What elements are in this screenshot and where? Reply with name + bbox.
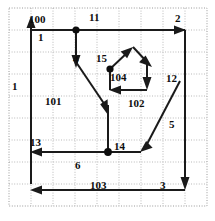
node-11-dot[interactable]: [72, 26, 79, 33]
label-2: 2: [175, 13, 181, 24]
edge-4-arrowhead: [100, 99, 108, 115]
label-102: 102: [128, 98, 145, 109]
label-node-11: 11: [89, 12, 99, 23]
label-15: 15: [96, 53, 107, 64]
edge-4-diagonal: [76, 62, 105, 105]
label-6: 6: [75, 160, 81, 171]
label-1-left: 1: [12, 81, 18, 92]
diagram-canvas: 100 11 2 1 4 15 104 12 1 101 102 5 13 14…: [0, 0, 215, 221]
label-node-14: 14: [114, 141, 125, 152]
label-100: 100: [29, 14, 46, 25]
diagram-svg: [0, 0, 215, 221]
edge-5-arrowhead: [140, 141, 153, 152]
label-104: 104: [110, 72, 127, 83]
edge-3-arrowhead: [30, 186, 42, 195]
label-12: 12: [166, 73, 177, 84]
label-103: 103: [90, 180, 107, 191]
label-3: 3: [160, 180, 166, 191]
node-14-dot[interactable]: [104, 148, 112, 156]
label-5: 5: [169, 119, 175, 130]
label-4: 4: [73, 54, 79, 65]
label-1-top: 1: [38, 32, 44, 43]
label-13: 13: [30, 137, 41, 148]
edge-loop-right-arrowhead: [143, 77, 152, 90]
label-101: 101: [45, 96, 62, 107]
edge-12-arrowhead: [181, 177, 190, 190]
